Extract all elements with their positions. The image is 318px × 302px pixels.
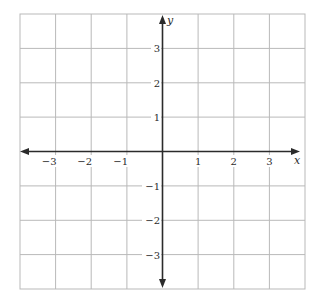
x-tick-label: −3 (42, 156, 57, 167)
x-tick-label: −2 (77, 156, 92, 167)
x-axis-left-arrow-icon (20, 148, 29, 155)
x-tick-label: 3 (266, 156, 272, 167)
y-tick-label: −2 (145, 215, 160, 226)
y-tick-label: 1 (154, 112, 160, 123)
y-axis-label: y (166, 14, 174, 27)
coordinate-plane: 3 2 1 −1 −2 −3 −3 −2 −1 1 2 3 x y (0, 0, 318, 302)
y-tick-label: −3 (145, 250, 160, 261)
y-tick-label: 2 (154, 78, 160, 89)
x-axis-label: x (294, 154, 301, 167)
y-axis-up-arrow-icon (159, 15, 166, 24)
y-axis-down-arrow-icon (159, 279, 166, 288)
y-tick-label: 3 (154, 43, 160, 54)
x-tick-labels: −3 −2 −1 1 2 3 (42, 155, 274, 167)
y-tick-label: −1 (145, 181, 160, 192)
x-tick-label: 1 (195, 156, 201, 167)
x-tick-label: 2 (231, 156, 237, 167)
x-tick-label: −1 (113, 156, 128, 167)
x-axis (20, 148, 300, 155)
